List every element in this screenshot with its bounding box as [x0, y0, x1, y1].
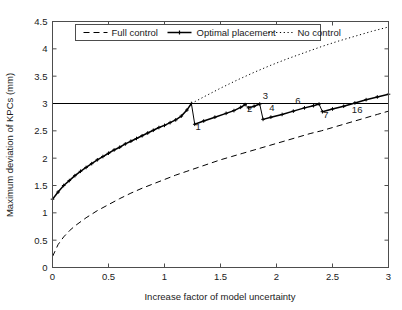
x-axis-title: Increase factor of model uncertainty	[144, 291, 295, 302]
chart-figure: Maximum deviation of KPCs (mm) Increase …	[0, 0, 402, 310]
y-tick-label: 4	[42, 43, 47, 54]
chart-background	[0, 0, 402, 310]
x-tick-label: 2	[274, 271, 279, 282]
annotation-label: 4	[269, 102, 274, 113]
chart-svg: Maximum deviation of KPCs (mm) Increase …	[0, 0, 402, 310]
x-axis-title-group: Increase factor of model uncertainty	[144, 291, 295, 302]
annotation-label: 3	[263, 90, 268, 101]
y-tick-label: 1.5	[34, 180, 47, 191]
y-tick-label: 0	[42, 262, 47, 273]
annotation-label: 7	[323, 109, 328, 120]
legend: Full controlOptimal placementNo control	[76, 25, 341, 41]
annotation-label: 2	[247, 103, 252, 114]
annotation-label: 1	[195, 121, 200, 132]
legend-label: Full control	[112, 27, 158, 38]
x-tick-label: 0.5	[102, 271, 115, 282]
y-axis-title-group: Maximum deviation of KPCs (mm)	[4, 73, 15, 217]
x-tick-label: 1	[162, 271, 167, 282]
x-tick-label: 3	[386, 271, 391, 282]
y-tick-label: 3.5	[34, 71, 47, 82]
legend-label: Optimal placement	[197, 27, 277, 38]
x-tick-label: 2.5	[326, 271, 339, 282]
y-tick-label: 3	[42, 98, 47, 109]
y-tick-label: 4.5	[34, 16, 47, 27]
x-tick-label: 0	[50, 271, 55, 282]
annotation-label: 6	[295, 95, 300, 106]
y-tick-label: 2.5	[34, 125, 47, 136]
y-tick-label: 1	[42, 207, 47, 218]
y-tick-label: 0.5	[34, 235, 47, 246]
x-tick-label: 1.5	[214, 271, 227, 282]
legend-label: No control	[298, 27, 341, 38]
y-tick-label: 2	[42, 153, 47, 164]
annotation-label: 16	[352, 104, 363, 115]
y-axis-title: Maximum deviation of KPCs (mm)	[4, 73, 15, 217]
